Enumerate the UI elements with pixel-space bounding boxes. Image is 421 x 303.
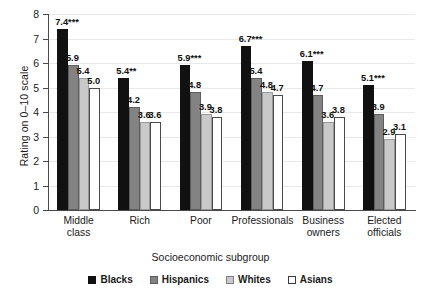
bar-value-label: 5.0 [87, 76, 100, 86]
x-axis-title: Socioeconomic subgroup [0, 251, 421, 263]
bar-group: 6.1***4.73.63.8 [302, 14, 345, 210]
bar-value-label: 5.4 [77, 66, 90, 76]
y-tick-label: 3 [20, 132, 39, 142]
x-axis-category-label: Rich [109, 215, 170, 227]
bar-value-label: 3.6 [148, 110, 161, 120]
bar [212, 117, 223, 210]
bar-group: 5.1***3.92.93.1 [363, 14, 406, 210]
legend-item-hispanics: Hispanics [150, 274, 209, 285]
y-tick-label: 1 [20, 181, 39, 191]
bar [79, 78, 90, 210]
bar [323, 122, 334, 210]
x-axis-line [48, 210, 416, 211]
legend-item-blacks: Blacks [88, 274, 132, 285]
y-tick-label: 5 [20, 83, 39, 93]
bar [68, 65, 79, 210]
y-tick-mark [43, 63, 48, 64]
legend-label: Whites [238, 274, 271, 285]
bar-group: 6.7***5.44.84.7 [241, 14, 284, 210]
y-tick-label: 6 [20, 58, 39, 68]
bar [89, 88, 100, 211]
y-tick-mark [43, 186, 48, 187]
bar-value-label: 6.7*** [239, 34, 263, 44]
bar [251, 78, 262, 210]
bar-value-label: 3.8 [210, 105, 223, 115]
x-axis-category-label: Poor [170, 215, 231, 227]
y-tick-mark [43, 112, 48, 113]
legend-swatch-icon [288, 276, 296, 284]
x-axis-category-label: Middleclass [48, 215, 109, 238]
y-tick-mark [43, 14, 48, 15]
bar-value-label: 4.2 [127, 95, 140, 105]
y-tick-mark [43, 137, 48, 138]
bar [140, 122, 151, 210]
legend-label: Asians [300, 274, 333, 285]
y-tick-label: 8 [20, 9, 39, 19]
legend-label: Blacks [100, 274, 132, 285]
y-tick-mark [43, 39, 48, 40]
x-axis-category-label: Electedofficials [354, 215, 415, 238]
bar-value-label: 4.7 [311, 83, 324, 93]
bar-value-label: 6.1*** [300, 49, 324, 59]
bar [262, 92, 273, 210]
y-tick-mark [43, 161, 48, 162]
gridline [48, 39, 415, 40]
bar-group: 7.4***5.95.45.0 [57, 14, 100, 210]
bar-value-label: 4.7 [271, 83, 284, 93]
bar-chart: Rating on 0–10 scale 7.4***5.95.45.05.4*… [0, 0, 421, 303]
gridline [48, 63, 415, 64]
bar [201, 114, 212, 210]
gridline [48, 137, 415, 138]
y-tick-label: 7 [20, 34, 39, 44]
x-axis-category-label: Businessowners [293, 215, 354, 238]
plot-area: 7.4***5.95.45.05.4**4.23.63.65.9***4.83.… [48, 14, 415, 210]
bar-group: 5.4**4.23.63.6 [118, 14, 161, 210]
y-tick-label: 0 [20, 205, 39, 215]
y-axis-line [48, 14, 49, 211]
bar-value-label: 3.8 [332, 105, 345, 115]
gridline [48, 14, 415, 15]
y-tick-mark [43, 88, 48, 89]
bar-value-label: 7.4*** [55, 17, 79, 27]
bar-group: 5.9***4.83.93.8 [180, 14, 223, 210]
bar-value-label: 5.9 [66, 53, 79, 63]
bar [150, 122, 161, 210]
gridline [48, 88, 415, 89]
bar-value-label: 3.1 [393, 122, 406, 132]
bar [395, 134, 406, 210]
bar [334, 117, 345, 210]
legend-swatch-icon [150, 276, 158, 284]
gridline [48, 186, 415, 187]
y-tick-label: 4 [20, 107, 39, 117]
legend-item-whites: Whites [226, 274, 271, 285]
bar-value-label: 5.1*** [361, 73, 385, 83]
chart-legend: BlacksHispanicsWhitesAsians [0, 274, 421, 285]
gridline [48, 112, 415, 113]
bar-value-label: 5.9*** [178, 53, 202, 63]
bar-value-label: 5.4 [249, 66, 262, 76]
y-tick-label: 2 [20, 156, 39, 166]
legend-item-asians: Asians [288, 274, 333, 285]
bar [129, 107, 140, 210]
bar-value-label: 5.4** [116, 66, 136, 76]
x-axis-category-label: Professionals [232, 215, 293, 227]
gridline [48, 161, 415, 162]
bar-value-label: 3.9 [372, 102, 385, 112]
bar [273, 95, 284, 210]
bar-value-label: 4.8 [188, 80, 201, 90]
legend-swatch-icon [88, 276, 96, 284]
y-tick-mark [43, 210, 48, 211]
legend-swatch-icon [226, 276, 234, 284]
legend-label: Hispanics [162, 274, 209, 285]
bar [384, 139, 395, 210]
